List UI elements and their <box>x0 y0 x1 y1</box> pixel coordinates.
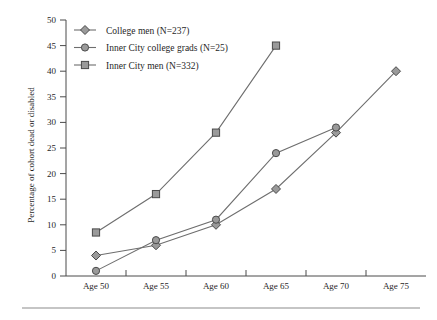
data-point-circle-marker <box>212 216 219 223</box>
legend-label: Inner City men (N=332) <box>106 61 199 72</box>
x-tick-label: Age 75 <box>383 281 410 291</box>
x-tick-label: Age 70 <box>323 281 350 291</box>
y-tick-label: 30 <box>47 117 57 127</box>
x-tick-label: Age 60 <box>203 281 230 291</box>
line-chart: Percentage of cohort dead or disabled 05… <box>0 0 437 320</box>
chart-container: Percentage of cohort dead or disabled 05… <box>0 0 437 320</box>
y-tick-label: 50 <box>47 15 57 25</box>
legend-label: College men (N=237) <box>106 26 189 37</box>
data-point-square-marker <box>272 42 279 49</box>
y-tick-label: 5 <box>52 245 57 255</box>
x-tick-label: Age 65 <box>263 281 290 291</box>
data-point-circle-marker <box>152 237 159 244</box>
y-tick-label: 20 <box>47 169 57 179</box>
data-point-diamond-marker <box>81 26 90 35</box>
y-tick-label: 25 <box>47 143 57 153</box>
y-tick-label: 40 <box>47 66 57 76</box>
x-axis: Age 50Age 55Age 60Age 65Age 70Age 75 <box>83 270 410 291</box>
y-tick-label: 35 <box>47 92 57 102</box>
y-tick-label: 0 <box>52 271 57 281</box>
data-point-diamond-marker <box>92 251 101 260</box>
y-axis-title-text: Percentage of cohort dead or disabled <box>26 87 36 223</box>
y-axis: 05101520253035404550 <box>47 15 66 281</box>
y-tick-label: 10 <box>47 220 57 230</box>
data-point-circle-marker <box>272 150 279 157</box>
data-point-circle-marker <box>332 124 339 131</box>
legend-label: Inner City college grads (N=25) <box>106 43 228 54</box>
data-point-circle-marker <box>81 44 88 51</box>
x-tick-label: Age 50 <box>83 281 110 291</box>
series-line <box>96 71 396 255</box>
x-tick-label: Age 55 <box>143 281 170 291</box>
data-point-square-marker <box>81 61 88 68</box>
data-point-square-marker <box>152 190 159 197</box>
data-point-square-marker <box>92 229 99 236</box>
series-layer <box>92 42 401 274</box>
data-point-circle-marker <box>92 267 99 274</box>
y-tick-label: 45 <box>47 41 57 51</box>
chart-legend: College men (N=237)Inner City college gr… <box>74 26 228 72</box>
y-axis-title: Percentage of cohort dead or disabled <box>26 87 36 223</box>
data-point-square-marker <box>212 129 219 136</box>
y-tick-label: 15 <box>47 194 57 204</box>
